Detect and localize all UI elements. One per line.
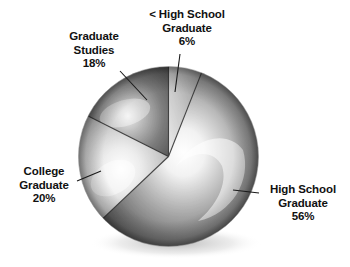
slice-label-graduate-studies: Graduate Studies 18%	[52, 30, 136, 71]
slice-label-less-than-high-school-graduate: < High School Graduate 6%	[139, 8, 235, 49]
slice-label-value: 56%	[258, 210, 348, 224]
slice-label-line-2: Graduate	[258, 197, 348, 211]
slice-label-line-1: Graduate	[52, 30, 136, 44]
pie-chart-page: < High School Graduate 6% Graduate Studi…	[0, 0, 350, 267]
slice-label-line-1: < High School	[139, 8, 235, 22]
slice-label-line-2: Graduate	[139, 22, 235, 36]
slice-label-line-1: High School	[258, 183, 348, 197]
slice-label-line-2: Graduate	[4, 179, 84, 193]
slice-label-line-2: Studies	[52, 44, 136, 58]
slice-label-value: 18%	[52, 57, 136, 71]
slice-label-high-school-graduate: High School Graduate 56%	[258, 183, 348, 224]
slice-label-value: 6%	[139, 35, 235, 49]
slice-label-line-1: College	[4, 165, 84, 179]
slice-label-value: 20%	[4, 192, 84, 206]
slice-label-college-graduate: College Graduate 20%	[4, 165, 84, 206]
